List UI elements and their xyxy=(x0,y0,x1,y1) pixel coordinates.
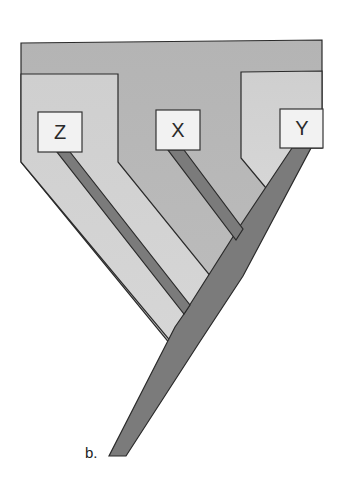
panel-label: b. xyxy=(85,444,98,461)
taxon-x: X xyxy=(156,110,200,150)
taxon-z: Z xyxy=(38,112,82,152)
taxon-z-label: Z xyxy=(54,121,66,143)
cladogram-diagram: Z X Y b. xyxy=(0,0,354,480)
taxon-y-label: Y xyxy=(295,117,308,139)
taxon-y: Y xyxy=(280,109,323,148)
taxon-x-label: X xyxy=(171,119,184,141)
